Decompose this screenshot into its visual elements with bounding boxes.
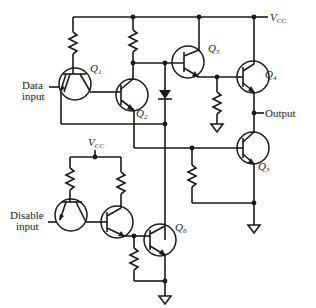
vcc-label-bottom: VCC [88, 136, 104, 150]
q2-label: Q2 [136, 107, 148, 121]
data-input-label-2: input [22, 90, 45, 102]
transistor-disable-driver [101, 206, 133, 238]
q1-label: Q1 [90, 62, 101, 76]
q4-label: Q4 [265, 68, 277, 82]
diode [158, 63, 172, 240]
ground-icon [159, 296, 171, 304]
disable-input-label-2: input [16, 220, 39, 232]
resistor-r4 [213, 77, 221, 124]
q6-label: Q6 [175, 221, 187, 235]
transistor-q1 [59, 68, 91, 100]
ground-icon [211, 124, 223, 132]
tri-state-ttl-schematic: VCC Q1 Data input Q2 [0, 0, 316, 308]
vcc-rail [73, 15, 268, 20]
transistor-q4 [237, 17, 269, 93]
transistor-q5 [172, 17, 204, 78]
ground-icon [248, 225, 260, 233]
output-label: Output [265, 107, 296, 119]
resistor-r7 [130, 236, 165, 281]
transistor-disable-input [55, 198, 87, 231]
resistor-r2 [129, 17, 137, 79]
q5-label: Q5 [208, 42, 220, 56]
q3-label: Q3 [258, 160, 270, 174]
resistor-r5 [66, 157, 74, 198]
transistor-q6 [144, 224, 176, 256]
resistor-r6 [117, 157, 125, 208]
resistor-r1 [69, 17, 77, 70]
resistor-r3 [188, 148, 254, 203]
vcc-label-top: VCC [270, 11, 286, 25]
